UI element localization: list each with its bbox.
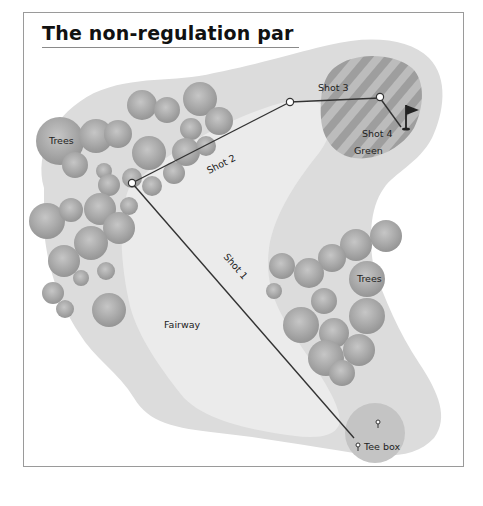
- ball-position-1: [128, 179, 135, 186]
- label-tee-box: Tee box: [363, 441, 400, 452]
- label-shot3: Shot 3: [318, 82, 349, 93]
- label-fairway: Fairway: [164, 319, 201, 330]
- tee-box: [345, 403, 405, 463]
- label-shot4: Shot 4: [362, 128, 393, 139]
- golf-hole-map: Trees Trees Fairway Green Tee box Shot 1…: [24, 13, 464, 467]
- label-trees-left: Trees: [48, 135, 74, 146]
- label-trees-right: Trees: [356, 273, 382, 284]
- diagram-frame: The non-regulation par: [23, 12, 464, 467]
- label-green: Green: [354, 145, 383, 156]
- ball-position-2: [286, 98, 293, 105]
- ball-position-3: [376, 93, 383, 100]
